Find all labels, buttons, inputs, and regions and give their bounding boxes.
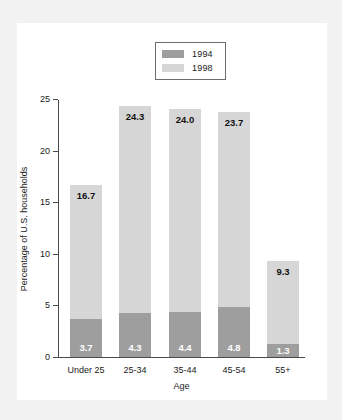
bar-value-label-1994: 4.4 <box>169 342 201 353</box>
bar-segment-1994[interactable]: 4.3 <box>119 313 151 357</box>
y-axis-title-label: Percentage of U.S. households <box>19 167 29 292</box>
bar-segment-1998[interactable]: 24.3 <box>119 106 151 312</box>
bar-value-label-1998: 23.7 <box>218 117 250 128</box>
bar-value-label-1998: 24.3 <box>119 111 151 122</box>
bar-group[interactable]: 24.04.4 <box>169 109 201 357</box>
x-axis-title: Age <box>58 381 305 391</box>
x-axis-category-label: 45-54 <box>209 365 259 375</box>
x-axis-category-label: Under 25 <box>61 365 111 375</box>
x-axis-category-label: 25-34 <box>110 365 160 375</box>
bar-value-label-1994: 4.3 <box>119 342 151 353</box>
chart-card: 1994 1998 Percentage of U.S. households … <box>17 23 327 400</box>
bar-group[interactable]: 24.34.3 <box>119 106 151 357</box>
bar-value-label-1998: 9.3 <box>267 266 299 277</box>
y-axis-title: Percentage of U.S. households <box>17 100 31 358</box>
bar-value-label-1998: 16.7 <box>70 190 102 201</box>
y-tick-mark <box>53 99 58 100</box>
bar-group[interactable]: 16.73.7 <box>70 185 102 357</box>
bar-segment-1994[interactable]: 3.7 <box>70 319 102 357</box>
y-tick-mark <box>53 305 58 306</box>
bar-segment-1998[interactable]: 23.7 <box>218 112 250 307</box>
bar-value-label-1994: 1.3 <box>267 345 299 356</box>
bar-group[interactable]: 9.31.3 <box>267 261 299 357</box>
plot-area: 0510152025 16.73.724.34.324.04.423.74.89… <box>58 100 305 358</box>
legend-item-1994[interactable]: 1994 <box>162 47 219 61</box>
y-axis-line <box>58 100 59 358</box>
bar-segment-1998[interactable]: 9.3 <box>267 261 299 344</box>
y-tick-label: 25 <box>40 94 50 104</box>
bar-segment-1994[interactable]: 1.3 <box>267 344 299 357</box>
legend-swatch-icon-1998 <box>162 64 184 72</box>
bar-segment-1998[interactable]: 24.0 <box>169 109 201 311</box>
bar-segment-1998[interactable]: 16.7 <box>70 185 102 319</box>
y-tick-label: 15 <box>40 197 50 207</box>
bar-value-label-1994: 4.8 <box>218 342 250 353</box>
page-root: 1994 1998 Percentage of U.S. households … <box>0 0 342 420</box>
legend-swatch-icon-1994 <box>162 50 184 58</box>
y-tick-mark <box>53 357 58 358</box>
bar-value-label-1994: 3.7 <box>70 342 102 353</box>
x-axis-category-label: 35-44 <box>160 365 210 375</box>
bar-group[interactable]: 23.74.8 <box>218 112 250 357</box>
chart-legend: 1994 1998 <box>155 42 226 80</box>
legend-label-1994: 1994 <box>192 50 213 59</box>
bar-value-label-1998: 24.0 <box>169 114 201 125</box>
legend-label-1998: 1998 <box>192 64 213 73</box>
y-tick-label: 0 <box>45 352 50 362</box>
bar-segment-1994[interactable]: 4.4 <box>169 312 201 357</box>
y-tick-label: 10 <box>40 249 50 259</box>
y-tick-mark <box>53 202 58 203</box>
legend-item-1998[interactable]: 1998 <box>162 61 219 75</box>
x-axis-line <box>58 357 305 358</box>
x-axis-category-label: 55+ <box>258 365 308 375</box>
y-tick-label: 5 <box>45 300 50 310</box>
y-tick-label: 20 <box>40 146 50 156</box>
y-tick-mark <box>53 151 58 152</box>
y-tick-mark <box>53 254 58 255</box>
bar-segment-1994[interactable]: 4.8 <box>218 307 250 357</box>
